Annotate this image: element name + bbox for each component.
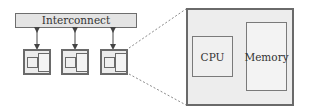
cpu-label: CPU [201, 51, 225, 63]
memory-label: Memory [244, 51, 288, 63]
node-memory [76, 53, 88, 72]
node-1 [23, 49, 51, 75]
cpu-block: CPU [192, 36, 233, 77]
memory-block: Memory [246, 22, 287, 91]
node-memory [115, 53, 127, 72]
node-memory [38, 53, 50, 72]
bidirectional-arrows [37, 30, 113, 47]
node-cpu [27, 57, 38, 68]
node-cpu [65, 57, 76, 68]
node-2 [61, 49, 89, 75]
node-3 [100, 49, 128, 75]
zoom-dashed-lines [129, 9, 186, 105]
node-cpu [104, 57, 115, 68]
